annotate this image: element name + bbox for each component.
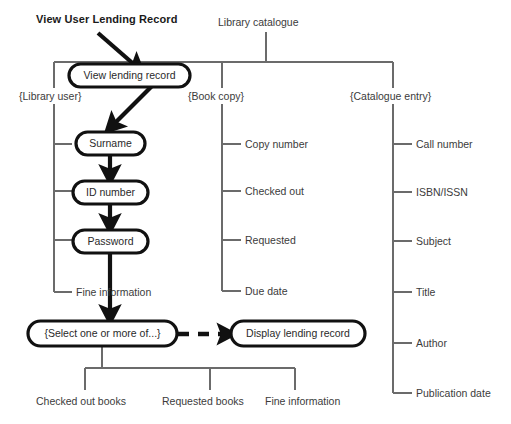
node-label-select[interactable]: {Select one or more of...} [28,328,177,339]
nodes-layer [0,0,511,424]
group-label-book-copy: {Book copy} [188,91,244,102]
attr-catalogue-author: Author [416,338,447,349]
diagram-canvas: View User Lending Record Library catalog… [0,0,511,424]
attr-library-user-fine-information: Fine information [76,287,151,298]
attr-book-copy-requested: Requested [245,235,296,246]
attr-catalogue-subject: Subject [416,236,451,247]
select-option-fine-information: Fine information [265,396,340,407]
page-title: View User Lending Record [36,14,178,25]
select-option-requested-books: Requested books [162,396,244,407]
node-label-id-number[interactable]: ID number [73,187,148,198]
node-label-view-lending-record[interactable]: View lending record [69,70,190,81]
node-label-surname[interactable]: Surname [76,138,145,149]
group-label-catalogue-entry: {Catalogue entry} [350,91,431,102]
root-label: Library catalogue [218,17,299,28]
attr-book-copy-checked-out: Checked out [245,186,304,197]
attr-book-copy-due-date: Due date [245,286,288,297]
attr-catalogue-publication-date: Publication date [416,388,491,399]
attr-catalogue-title: Title [416,287,435,298]
node-label-display[interactable]: Display lending record [231,328,365,339]
attr-book-copy-copy-number: Copy number [245,139,308,150]
group-label-library-user: {Library user} [19,91,81,102]
attr-catalogue-isbn-issn: ISBN/ISSN [416,187,468,198]
attr-catalogue-call-number: Call number [416,139,473,150]
select-option-checked-out-books: Checked out books [36,396,126,407]
node-label-password[interactable]: Password [73,236,148,247]
